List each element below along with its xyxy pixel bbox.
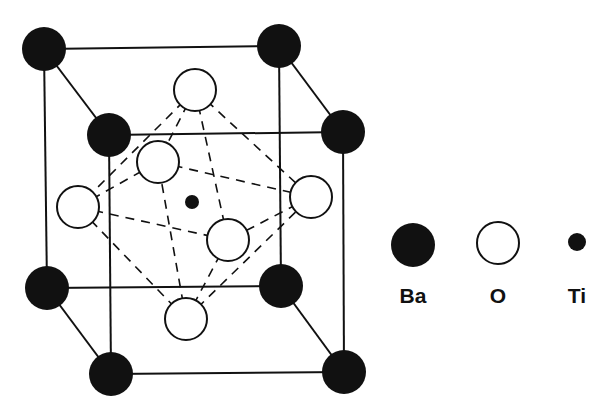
- barium-atom: [22, 27, 66, 71]
- oxygen-atom: [290, 176, 332, 218]
- unit-cell-drawing: [0, 0, 613, 419]
- legend-label-ba: Ba: [400, 284, 427, 308]
- legend-label-o: O: [490, 284, 506, 308]
- cube-edge: [111, 372, 344, 374]
- barium-atom: [25, 266, 69, 310]
- barium-atom: [257, 24, 301, 68]
- oxygen-atom: [57, 186, 99, 228]
- oxygen-atom: [165, 298, 207, 340]
- barium-atom: [322, 350, 366, 394]
- octahedron-edge: [78, 207, 228, 240]
- octahedron-edge: [195, 90, 228, 240]
- legend-ti-icon: [568, 233, 586, 251]
- barium-atom: [87, 113, 131, 157]
- cube-edge: [343, 132, 344, 372]
- cube-edge: [47, 286, 281, 288]
- legend-label-ti: Ti: [568, 284, 586, 308]
- barium-atom: [259, 264, 303, 308]
- barium-atom: [89, 352, 133, 396]
- legend-o-icon: [477, 222, 519, 264]
- oxygen-atom: [174, 69, 216, 111]
- barium-atom: [321, 110, 365, 154]
- octahedron-edge: [195, 90, 311, 197]
- oxygen-atom: [207, 219, 249, 261]
- octahedron-edge: [158, 162, 311, 197]
- perovskite-diagram: Ba O Ti: [0, 0, 613, 419]
- titanium-atom: [185, 195, 199, 209]
- cube-edge: [279, 46, 281, 286]
- cube-edge: [44, 49, 47, 288]
- legend-ba-icon: [391, 223, 435, 267]
- cube-edge: [109, 132, 343, 135]
- cube-edge: [44, 46, 279, 49]
- oxygen-atom: [137, 141, 179, 183]
- cube-edge: [109, 135, 111, 374]
